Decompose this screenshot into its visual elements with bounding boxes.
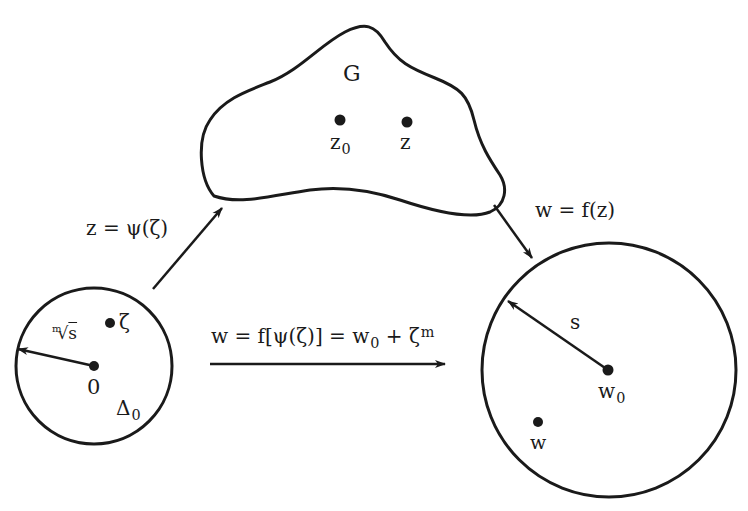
point-z-dot — [402, 117, 413, 128]
disk-left-radius-arrow — [18, 349, 94, 366]
point-z0-dot — [335, 115, 346, 126]
delta-base: Δ — [116, 396, 130, 420]
w0-base: w — [598, 379, 615, 403]
disk-left-center-label: 0 — [87, 377, 100, 398]
radicand: s — [68, 323, 77, 343]
point-z0-base: z — [330, 130, 341, 154]
disk-right-radius-arrow — [508, 301, 608, 370]
composite-sup: m — [421, 324, 435, 340]
point-w-label: w — [530, 433, 546, 452]
map-composite-label: w = f[ψ(ζ)] = w0 + ζm — [211, 326, 434, 346]
diagram-canvas — [0, 0, 748, 511]
point-w-dot — [533, 417, 543, 427]
w0-sub: 0 — [616, 390, 625, 406]
domain-G-label: G — [343, 63, 361, 85]
domain-G-outline — [201, 26, 504, 215]
point-z0-sub: 0 — [342, 141, 351, 157]
point-z-label: z — [400, 132, 411, 152]
composite-prefix: w = f[ψ(ζ)] = w — [211, 324, 369, 348]
map-f-label: w = f(z) — [535, 200, 615, 220]
disk-left-radius-label: m√s — [52, 325, 77, 342]
point-zeta-dot — [105, 318, 115, 328]
point-z0-label: z0 — [330, 132, 351, 152]
disk-right-center-label: w0 — [598, 381, 625, 401]
delta-sub: 0 — [131, 407, 140, 423]
composite-mid: + ζ — [386, 324, 420, 348]
disk-left-label: Δ0 — [116, 398, 141, 418]
arrow-f — [494, 205, 532, 258]
composite-sub: 0 — [370, 335, 379, 351]
point-zeta-label: ζ — [119, 312, 130, 332]
disk-right-radius-label: s — [570, 312, 580, 332]
root-index: m — [52, 323, 61, 334]
map-psi-label: z = ψ(ζ) — [86, 218, 168, 238]
